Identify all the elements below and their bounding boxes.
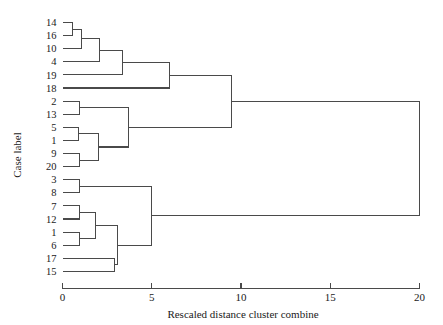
case-label-3: 4	[51, 56, 57, 67]
case-label-19: 15	[46, 266, 57, 277]
dendrogram-plot: 141610419182135192038712161715 05101520 …	[0, 0, 443, 325]
case-label-10: 9	[51, 148, 56, 159]
case-label-11: 20	[46, 161, 57, 172]
merge-link-m18	[79, 186, 151, 245]
case-label-1: 16	[46, 30, 57, 41]
y-axis-title: Case label	[11, 132, 23, 178]
merge-link-m19	[152, 101, 420, 215]
case-label-5: 18	[46, 83, 57, 94]
x-tick-label-10: 10	[236, 291, 248, 303]
case-label-4: 19	[46, 70, 57, 81]
case-label-17: 6	[51, 240, 56, 251]
case-label-7: 13	[46, 109, 57, 120]
x-tick-label-0: 0	[60, 291, 66, 303]
x-axis: 05101520	[60, 283, 426, 303]
merge-link-m8	[63, 154, 80, 167]
merge-link-m13	[63, 206, 80, 219]
merge-link-m16	[63, 258, 115, 271]
merge-link-m1	[63, 23, 73, 36]
merge-link-m9	[79, 134, 99, 160]
dendrogram-leaf-labels: 141610419182135192038712161715	[46, 17, 57, 277]
case-label-12: 3	[51, 174, 56, 185]
case-label-16: 1	[51, 227, 56, 238]
case-label-2: 10	[46, 43, 57, 54]
case-label-8: 5	[51, 122, 56, 133]
merge-link-m15	[79, 212, 95, 238]
merge-link-m14	[63, 232, 80, 245]
case-label-6: 2	[51, 96, 56, 107]
case-label-0: 14	[46, 17, 57, 28]
merge-link-m6	[63, 101, 80, 114]
merge-link-m7	[63, 127, 79, 140]
case-label-13: 8	[51, 187, 56, 198]
x-axis-title: Rescaled distance cluster combine	[167, 308, 318, 320]
x-tick-label-5: 5	[149, 291, 155, 303]
merge-link-m11	[129, 75, 232, 127]
merge-link-m12	[63, 180, 80, 193]
case-label-18: 17	[46, 253, 57, 264]
x-tick-label-20: 20	[414, 291, 426, 303]
case-label-15: 12	[46, 214, 57, 225]
dendrogram-figure: 141610419182135192038712161715 05101520 …	[0, 0, 443, 325]
case-label-14: 7	[51, 201, 56, 212]
case-label-9: 1	[51, 135, 56, 146]
x-tick-label-15: 15	[325, 291, 337, 303]
merge-link-m10	[79, 108, 128, 147]
dendrogram-links	[63, 23, 420, 272]
merge-link-m4	[63, 50, 123, 75]
